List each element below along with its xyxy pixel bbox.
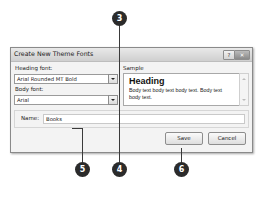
name-group: Name: Books	[14, 110, 249, 128]
callout-line-3	[119, 25, 120, 162]
body-font-dropdown-button[interactable]	[108, 95, 118, 105]
dialog-title: Create New Theme Fonts	[14, 50, 93, 57]
sample-heading: Heading	[129, 76, 165, 86]
close-button[interactable]: ✕	[234, 50, 250, 60]
callout-4: 4	[112, 162, 127, 177]
scroll-up-icon	[242, 78, 246, 80]
body-font-select[interactable]: Arial	[14, 95, 118, 105]
callout-5: 5	[75, 162, 90, 177]
callout-6: 6	[174, 162, 189, 177]
sample-scrollbar[interactable]	[239, 73, 249, 106]
cancel-button[interactable]: Cancel	[208, 132, 246, 145]
name-input[interactable]: Books	[43, 114, 245, 124]
heading-font-select[interactable]: Arial Rounded MT Bold	[14, 74, 118, 84]
heading-font-value: Arial Rounded MT Bold	[17, 76, 77, 82]
sample-preview: Heading Body text body text body text. B…	[123, 73, 240, 106]
scroll-down-icon	[242, 99, 246, 101]
create-new-theme-fonts-dialog: Create New Theme Fonts ? ✕ Heading font:…	[10, 47, 253, 153]
heading-font-dropdown-button[interactable]	[108, 74, 118, 84]
name-label: Name:	[21, 115, 39, 121]
save-button[interactable]: Save	[165, 132, 203, 145]
chevron-down-icon	[111, 78, 115, 80]
name-value: Books	[46, 116, 62, 122]
heading-font-label: Heading font:	[15, 65, 52, 71]
callout-line-5-h	[72, 128, 83, 129]
sample-body-text: Body text body text body text. Body text…	[129, 87, 233, 100]
chevron-down-icon	[111, 99, 115, 101]
callout-3: 3	[112, 11, 127, 26]
sample-label: Sample	[123, 65, 144, 71]
title-bar: Create New Theme Fonts ? ✕	[11, 48, 252, 62]
body-font-label: Body font:	[15, 86, 43, 92]
body-font-value: Arial	[17, 97, 29, 103]
